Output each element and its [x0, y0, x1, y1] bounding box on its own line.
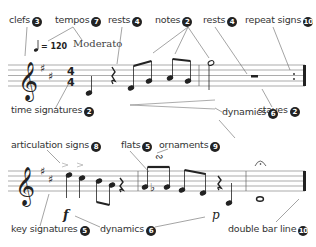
label-repeat-signs: repeat signs10	[245, 14, 313, 27]
svg-text:4: 4	[67, 76, 75, 89]
label-flats: flats5	[121, 139, 152, 152]
svg-text:♯: ♯	[40, 165, 45, 178]
forte-mark: f	[62, 207, 71, 222]
label-dynamics-top: dynamics6	[222, 106, 278, 119]
label-clefs: clefs3	[9, 14, 42, 27]
half-rest-icon	[251, 75, 258, 78]
turn-ornament-icon: ∾	[155, 151, 163, 162]
measure-4-notes: ♭ ∾	[142, 151, 233, 206]
svg-text:𝄞: 𝄞	[18, 60, 38, 102]
piano-mark: p	[212, 208, 220, 222]
label-notes: notes2	[155, 14, 192, 27]
label-rests: rests4	[108, 14, 142, 27]
svg-text:♯: ♯	[48, 70, 53, 83]
svg-text:♯: ♯	[40, 62, 45, 75]
label-tempos: tempos7	[55, 14, 101, 27]
tempo-marking: Moderato	[73, 38, 122, 49]
label-time-signatures: time signatures2	[11, 104, 94, 117]
label-rests-2: rests4	[203, 14, 237, 27]
time-signature: 4 4	[67, 65, 75, 89]
svg-text:♭: ♭	[150, 181, 155, 194]
music-notation-diagram: 𝄞 ♯ ♯ 4 4	[0, 0, 316, 247]
measure-1-notes	[86, 59, 192, 96]
svg-text:𝄞: 𝄞	[15, 165, 35, 207]
treble-clef-icon-bottom: 𝄞	[15, 165, 35, 207]
label-key-signatures: key signatures5	[11, 223, 90, 236]
tempo-note-icon	[33, 40, 38, 52]
key-signature-sharps-bottom: ♯ ♯	[40, 165, 53, 186]
label-articulation-signs: articulation signs8	[11, 139, 101, 152]
label-double-bar-line: double bar line10	[228, 223, 308, 236]
final-bar-icon	[303, 65, 306, 86]
measure-3-notes	[62, 163, 123, 205]
hairpin-decrescendo-icon	[130, 100, 215, 109]
label-ornaments: ornaments9	[159, 139, 220, 152]
double-bar-icon	[303, 171, 306, 191]
measure-2-notes	[207, 60, 306, 90]
tempo-bpm: = 120	[41, 42, 67, 51]
label-dynamics-bottom: dynamics6	[100, 223, 156, 236]
treble-clef-icon: 𝄞	[18, 60, 38, 102]
svg-text:♯: ♯	[48, 173, 53, 186]
